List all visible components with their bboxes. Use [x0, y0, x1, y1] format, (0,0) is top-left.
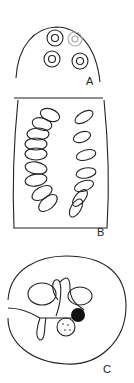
left-body-arc: [24, 106, 61, 215]
rosette-disc: [68, 32, 82, 46]
sphere-dots: [62, 323, 71, 331]
rosette-disc: [72, 53, 88, 69]
figure-drawing: [0, 0, 134, 383]
dotted-sphere: [57, 318, 75, 336]
panel-c-outline: [8, 256, 126, 364]
convoluted-tube: [8, 280, 72, 340]
dark-sphere: [71, 308, 85, 322]
panel-a-label: A: [86, 75, 93, 87]
panel-b-label: B: [97, 226, 104, 238]
panel-c-label: C: [103, 363, 111, 375]
right-body-arc: [67, 108, 97, 219]
rosette-disc: [47, 30, 63, 46]
hatched-oval: [28, 283, 56, 305]
rosette-disc: [44, 51, 60, 67]
